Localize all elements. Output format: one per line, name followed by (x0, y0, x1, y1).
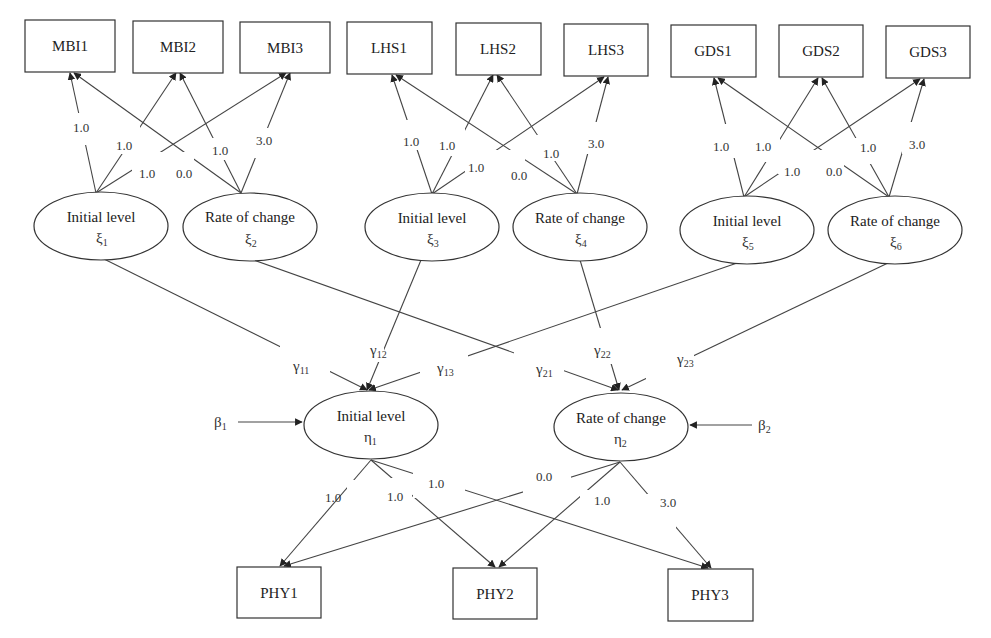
svg-text:GDS2: GDS2 (802, 43, 840, 59)
svg-text:1.0: 1.0 (468, 160, 484, 175)
svg-text:Initial level: Initial level (398, 210, 467, 226)
structural-edges (104, 259, 888, 390)
indicator-PHY1: PHY1 (237, 567, 321, 618)
svg-text:1.0: 1.0 (428, 476, 444, 491)
svg-text:PHY3: PHY3 (691, 587, 729, 603)
svg-text:0.0: 0.0 (511, 168, 527, 183)
svg-text:1.0: 1.0 (73, 120, 89, 135)
svg-text:0.0: 0.0 (176, 166, 192, 181)
svg-text:3.0: 3.0 (909, 137, 925, 152)
svg-text:1.0: 1.0 (594, 493, 610, 508)
indicator-MBI1: MBI1 (25, 20, 115, 72)
indicator-LHS3: LHS3 (564, 24, 648, 76)
indicator-PHY3: PHY3 (668, 569, 753, 621)
svg-text:1.0: 1.0 (387, 489, 403, 504)
indicator-GDS1: GDS1 (671, 25, 756, 77)
factor-xi5: Initial level ξ5 (680, 196, 814, 264)
svg-text:LHS1: LHS1 (371, 40, 407, 56)
indicator-LHS2: LHS2 (456, 23, 541, 75)
factor-eta1: Initial level η1 (304, 391, 438, 459)
factor-xi6: Rate of change ξ6 (828, 196, 962, 264)
svg-text:1.0: 1.0 (784, 164, 800, 179)
svg-text:Initial level: Initial level (67, 209, 136, 225)
svg-text:Rate of change: Rate of change (535, 210, 625, 226)
beta2-label: β2 (758, 417, 771, 435)
svg-text:Initial level: Initial level (713, 213, 782, 229)
lhs-loading-edges (392, 75, 608, 194)
svg-text:1.0: 1.0 (116, 138, 132, 153)
svg-text:Rate of change: Rate of change (576, 410, 666, 426)
indicator-LHS1: LHS1 (347, 22, 432, 74)
factor-xi4: Rate of change ξ4 (513, 193, 647, 261)
svg-text:1.0: 1.0 (439, 138, 455, 153)
svg-text:Rate of change: Rate of change (205, 209, 295, 225)
svg-text:MBI3: MBI3 (267, 40, 303, 56)
indicator-MBI2: MBI2 (133, 21, 223, 73)
svg-text:PHY2: PHY2 (476, 586, 514, 602)
svg-text:MBI2: MBI2 (160, 39, 196, 55)
factor-xi1: Initial level ξ1 (34, 192, 168, 260)
sem-diagram: 1.0 1.0 1.0 0.0 1.0 3.0 1.0 1.0 1.0 0.0 … (0, 0, 991, 638)
svg-text:Rate of change: Rate of change (850, 213, 940, 229)
svg-text:GDS3: GDS3 (909, 44, 947, 60)
svg-text:GDS1: GDS1 (694, 43, 732, 59)
svg-text:1.0: 1.0 (139, 166, 155, 181)
svg-text:1.0: 1.0 (325, 490, 341, 505)
svg-text:1.0: 1.0 (755, 139, 771, 154)
svg-text:0.0: 0.0 (826, 164, 842, 179)
beta1-label: β1 (214, 414, 227, 432)
svg-text:1.0: 1.0 (860, 140, 876, 155)
svg-text:3.0: 3.0 (660, 495, 676, 510)
indicator-MBI3: MBI3 (240, 22, 330, 73)
svg-text:LHS2: LHS2 (480, 41, 516, 57)
factor-eta2: Rate of change η2 (554, 393, 688, 461)
svg-text:PHY1: PHY1 (260, 585, 298, 601)
indicator-GDS2: GDS2 (779, 25, 863, 77)
svg-text:3.0: 3.0 (256, 133, 272, 148)
svg-text:Initial level: Initial level (337, 408, 406, 424)
svg-text:0.0: 0.0 (536, 469, 552, 484)
svg-text:1.0: 1.0 (713, 139, 729, 154)
svg-text:1.0: 1.0 (403, 134, 419, 149)
indicator-PHY2: PHY2 (453, 568, 537, 619)
svg-text:MBI1: MBI1 (52, 38, 88, 54)
svg-text:1.0: 1.0 (212, 143, 228, 158)
svg-text:3.0: 3.0 (588, 136, 604, 151)
svg-text:1.0: 1.0 (543, 146, 559, 161)
indicator-GDS3: GDS3 (886, 26, 970, 78)
factor-xi2: Rate of change ξ2 (183, 193, 317, 261)
svg-text:LHS3: LHS3 (588, 42, 624, 58)
factor-xi3: Initial level ξ3 (365, 193, 499, 261)
